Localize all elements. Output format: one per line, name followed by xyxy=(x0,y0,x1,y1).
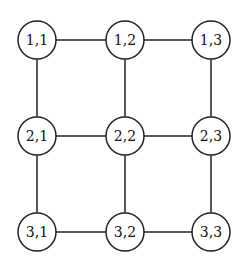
grid-graph-diagram: 1,11,21,32,12,22,33,13,23,3 xyxy=(0,0,246,268)
node-2-3: 2,3 xyxy=(192,117,230,155)
node-label: 3,3 xyxy=(200,224,222,240)
node-2-2: 2,2 xyxy=(106,117,144,155)
node-label: 1,1 xyxy=(26,32,48,48)
node-label: 1,3 xyxy=(200,32,222,48)
node-label: 1,2 xyxy=(114,32,136,48)
node-label: 2,1 xyxy=(26,128,48,144)
node-1-1: 1,1 xyxy=(18,21,56,59)
node-1-2: 1,2 xyxy=(106,21,144,59)
node-label: 2,2 xyxy=(114,128,136,144)
node-label: 3,1 xyxy=(26,224,48,240)
node-3-3: 3,3 xyxy=(192,213,230,251)
node-label: 2,3 xyxy=(200,128,222,144)
nodes-group: 1,11,21,32,12,22,33,13,23,3 xyxy=(18,21,230,251)
node-label: 3,2 xyxy=(114,224,136,240)
node-2-1: 2,1 xyxy=(18,117,56,155)
diagram-svg: 1,11,21,32,12,22,33,13,23,3 xyxy=(0,0,246,268)
node-3-1: 3,1 xyxy=(18,213,56,251)
node-1-3: 1,3 xyxy=(192,21,230,59)
node-3-2: 3,2 xyxy=(106,213,144,251)
